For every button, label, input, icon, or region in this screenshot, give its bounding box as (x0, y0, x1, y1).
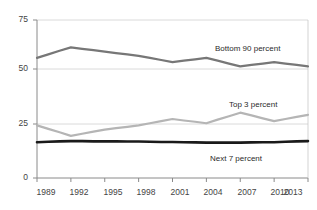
y-tick-label-25: 25 (6, 119, 28, 128)
x-tick-label-2004: 2004 (198, 188, 228, 197)
series-line-next-7-percent (37, 141, 308, 142)
x-tick-marks (37, 178, 308, 182)
y-tick-label-50: 50 (6, 64, 28, 73)
x-tick-label-1995: 1995 (98, 188, 128, 197)
y-tick-marks (33, 20, 37, 178)
x-tick-label-1989: 1989 (31, 188, 61, 197)
series-annotation-next-7-percent: Next 7 percent (210, 154, 262, 163)
series-annotation-bottom-90-percent: Bottom 90 percent (215, 44, 280, 53)
series-annotation-top-3-percent: Top 3 percent (229, 100, 277, 109)
x-tick-label-2007: 2007 (232, 188, 262, 197)
x-tick-label-1992: 1992 (64, 188, 94, 197)
x-tick-label-2013: 2013 (278, 188, 308, 197)
y-tick-label-0: 0 (6, 173, 28, 182)
series-group (37, 47, 308, 142)
x-tick-label-2001: 2001 (165, 188, 195, 197)
chart-container: 75 50 25 0 1989 1992 1995 1998 2001 2004… (0, 0, 317, 210)
y-tick-label-75: 75 (6, 15, 28, 24)
x-tick-label-1998: 1998 (131, 188, 161, 197)
